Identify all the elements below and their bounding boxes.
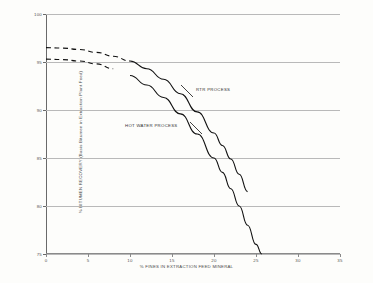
x-axis-label: % FINES IN EXTRACTION FEED MINERAL: [0, 264, 373, 269]
annotation-leader-lines: [0, 0, 373, 283]
chart-figure: % BITUMEN RECOVERY (Basis Bitumen in Ext…: [0, 0, 373, 283]
